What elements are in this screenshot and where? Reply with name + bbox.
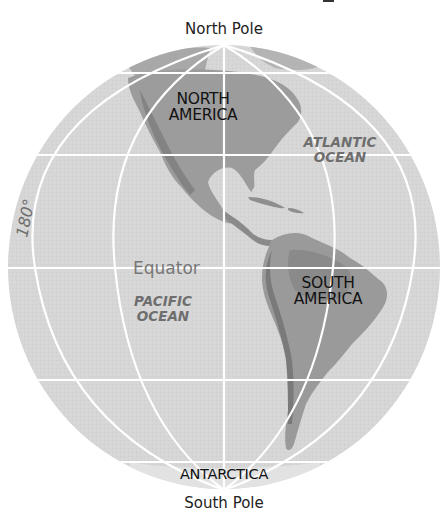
- pacific-ocean-label: PACIFIC OCEAN: [128, 294, 198, 324]
- globe-graphic: [0, 0, 448, 517]
- cropped-title-fragment: [323, 0, 334, 2]
- atlantic-ocean-label: ATLANTIC OCEAN: [296, 135, 384, 165]
- north-america-label-line2: AMERICA: [158, 108, 248, 124]
- atlantic-label-line2: OCEAN: [296, 150, 384, 165]
- atlantic-label-line1: ATLANTIC: [296, 135, 384, 150]
- antarctica-label: ANTARCTICA: [174, 467, 274, 482]
- globe-map: North Pole South Pole NORTH AMERICA SOUT…: [0, 0, 448, 517]
- pacific-label-line2: OCEAN: [128, 309, 198, 324]
- pacific-label-line1: PACIFIC: [128, 294, 198, 309]
- north-america-label: NORTH AMERICA: [158, 92, 248, 124]
- south-pole-label: South Pole: [0, 496, 448, 511]
- north-pole-label: North Pole: [0, 22, 448, 37]
- south-america-label: SOUTH AMERICA: [280, 276, 376, 308]
- south-america-label-line2: AMERICA: [280, 292, 376, 308]
- equator-label: Equator: [133, 260, 200, 277]
